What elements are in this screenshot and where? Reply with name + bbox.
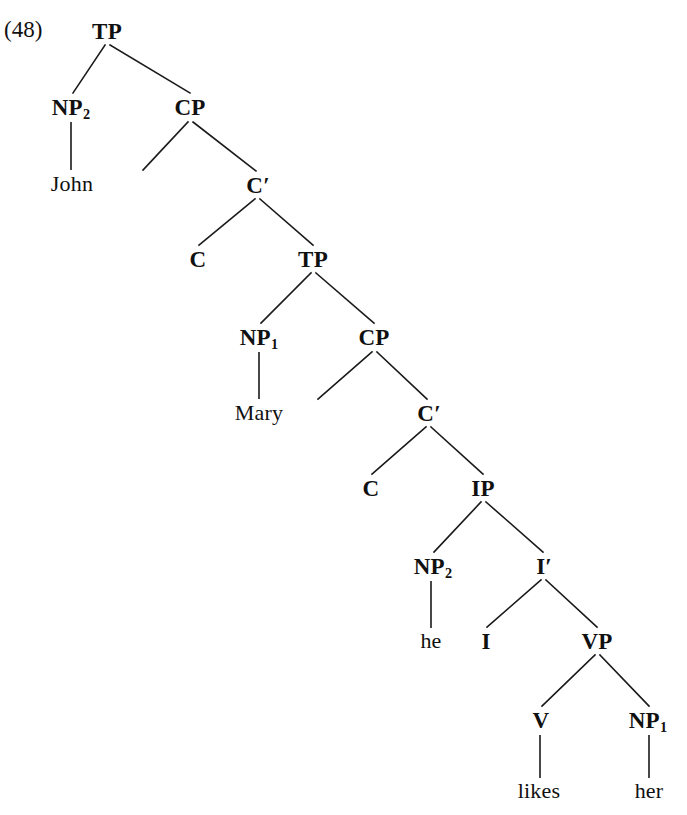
tree-edge-cp1-to-cp1spec (143, 122, 188, 170)
tree-node-her: her (635, 780, 664, 802)
tree-node-c1: C (190, 248, 207, 271)
tree-edge-ip-to-ibar (486, 502, 543, 552)
tree-node-i: I (481, 630, 490, 653)
tree-node-cp1: CP (174, 96, 205, 119)
tree-edge-cp1-to-cbar1 (193, 122, 256, 171)
tree-node-cbar2: C′ (417, 402, 440, 425)
tree-node-cbar1: C′ (246, 174, 269, 197)
tree-node-label: C (417, 401, 434, 426)
tree-edge-ip-to-np2b (434, 502, 481, 552)
tree-edge-ibar-to-i (487, 580, 541, 627)
tree-node-index-subscript: 1 (660, 718, 667, 734)
tree-node-np1b: NP1 (629, 709, 668, 732)
tree-node-label: V (533, 708, 550, 733)
tree-node-mary: Mary (235, 402, 283, 424)
tree-node-label: VP (581, 629, 612, 654)
tree-node-label: he (420, 628, 441, 653)
tree-edge-tp1-to-np2a (73, 45, 105, 93)
tree-node-tp1: TP (92, 20, 122, 43)
tree-node-he: he (420, 630, 441, 652)
tree-node-label: likes (518, 778, 561, 803)
tree-edge-tp1-to-cp1 (110, 45, 190, 93)
tree-edge-cp2-to-cbar2 (377, 352, 427, 399)
tree-edge-tp2-to-cp2 (316, 273, 374, 323)
tree-node-c2: C (363, 477, 380, 500)
tree-node-np2b: NP2 (414, 555, 453, 578)
tree-node-label: CP (174, 95, 205, 120)
tree-node-label: I (536, 554, 545, 579)
tree-node-index-subscript: 1 (271, 335, 278, 351)
tree-edge-cbar2-to-c2 (372, 427, 426, 474)
tree-node-v: V (533, 709, 550, 732)
tree-edges (0, 0, 687, 815)
example-number-label: (48) (4, 18, 42, 41)
tree-node-ibar: I′ (536, 555, 552, 578)
tree-node-np2a: NP2 (52, 96, 91, 119)
bar-level-prime-mark: ′ (263, 173, 269, 198)
tree-node-cp2: CP (358, 326, 389, 349)
tree-edge-ibar-to-vp (546, 580, 597, 627)
tree-edge-vp-to-np1b (600, 655, 649, 706)
tree-node-label: C (246, 173, 263, 198)
tree-node-label: John (51, 171, 93, 196)
tree-node-label: I (481, 629, 490, 654)
tree-node-likes: likes (518, 780, 561, 802)
bar-level-prime-mark: ′ (545, 554, 551, 579)
tree-node-john: John (51, 173, 93, 195)
tree-edge-tp2-to-np1a (261, 273, 311, 323)
tree-edge-vp-to-v (542, 655, 595, 706)
tree-node-label: TP (92, 19, 122, 44)
tree-node-label: NP (414, 554, 445, 579)
tree-node-label: NP (52, 95, 83, 120)
tree-node-label: IP (471, 476, 494, 501)
tree-node-label: TP (298, 247, 328, 272)
figure-canvas: (48) TPNP2CPJohnC′CTPNP1CPMaryC′CIPNP2I′… (0, 0, 687, 815)
tree-node-label: NP (629, 708, 660, 733)
tree-node-label: C (363, 476, 380, 501)
tree-edge-cbar1-to-tp2 (260, 199, 313, 245)
tree-node-label: her (635, 778, 664, 803)
tree-node-label: CP (358, 325, 389, 350)
tree-node-index-subscript: 2 (445, 564, 452, 580)
tree-edge-cp2-to-cp2spec (318, 352, 372, 399)
tree-node-index-subscript: 2 (83, 105, 90, 121)
tree-node-tp2: TP (298, 248, 328, 271)
bar-level-prime-mark: ′ (434, 401, 440, 426)
tree-node-label: NP (240, 325, 271, 350)
tree-edge-cbar2-to-ip (431, 427, 483, 474)
tree-node-ip: IP (471, 477, 494, 500)
tree-node-vp: VP (581, 630, 612, 653)
tree-node-label: C (190, 247, 207, 272)
tree-edge-cbar1-to-c1 (199, 199, 255, 245)
tree-node-label: Mary (235, 400, 283, 425)
tree-node-np1a: NP1 (240, 326, 279, 349)
